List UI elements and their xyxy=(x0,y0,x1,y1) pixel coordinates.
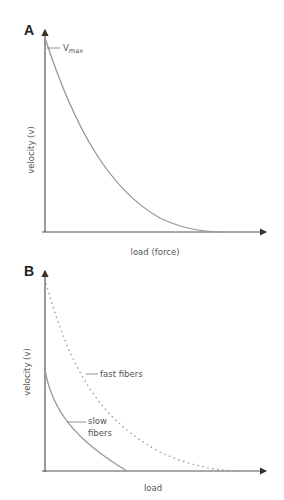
slow-fibers-curve xyxy=(45,370,127,471)
panel-a-label: A xyxy=(24,22,34,38)
figure: A Vmax load (force) velocity (v) B fast … xyxy=(0,0,284,500)
slow-fibers-label-2: fibers xyxy=(88,428,112,438)
y-axis-label: velocity (v) xyxy=(22,348,32,396)
y-axis-label: velocity (v) xyxy=(26,126,36,174)
x-axis-label: load xyxy=(144,483,162,493)
force-velocity-curve xyxy=(45,38,222,232)
fast-fibers-label: fast fibers xyxy=(100,369,143,379)
x-axis-label: load (force) xyxy=(131,247,180,257)
slow-fibers-label-1: slow xyxy=(88,416,107,426)
panel-b: B fast fibers slow fibers load velocity … xyxy=(22,263,266,493)
vmax-label: Vmax xyxy=(63,43,83,55)
panel-a: A Vmax load (force) velocity (v) xyxy=(24,22,266,257)
panel-b-label: B xyxy=(24,263,34,279)
